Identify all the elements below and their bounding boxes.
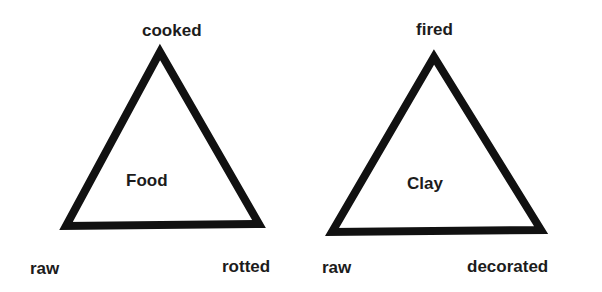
clay-triangle xyxy=(332,57,541,232)
clay-center-label: Clay xyxy=(407,175,443,192)
food-bottom-left-label: raw xyxy=(30,260,59,277)
food-bottom-right-label: rotted xyxy=(222,258,270,275)
clay-bottom-right-label: decorated xyxy=(467,258,548,275)
triangles-canvas xyxy=(0,0,602,292)
clay-bottom-left-label: raw xyxy=(322,259,351,276)
food-top-label: cooked xyxy=(142,22,202,39)
food-triangle xyxy=(66,52,259,226)
food-center-label: Food xyxy=(126,172,168,189)
clay-top-label: fired xyxy=(416,21,453,38)
